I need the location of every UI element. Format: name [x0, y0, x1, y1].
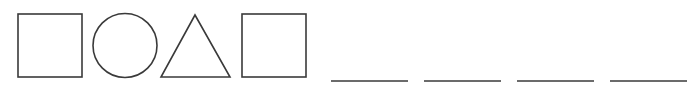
circle-shape [93, 14, 157, 78]
triangle-shape [161, 15, 230, 77]
square-shape [242, 14, 306, 77]
shape-sequence [18, 14, 306, 78]
pattern-diagram [0, 0, 688, 112]
square-shape [18, 14, 82, 77]
